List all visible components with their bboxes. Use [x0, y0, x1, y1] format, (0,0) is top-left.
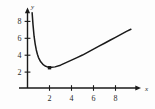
minimum-point-marker [48, 66, 51, 69]
x-tick-label-8: 8 [114, 94, 118, 103]
data-curve [32, 13, 131, 68]
x-tick-label-4: 4 [70, 94, 74, 103]
x-tick-label-6: 6 [92, 94, 96, 103]
x-tick-label-2: 2 [48, 94, 52, 103]
y-axis-arrow-icon [25, 8, 30, 14]
x-axis-arrow-icon [135, 85, 141, 90]
y-tick-label-6: 6 [18, 34, 22, 43]
y-tick-label-8: 8 [18, 17, 22, 26]
chart-figure: 2 4 6 8 2 4 6 8 y x [0, 0, 155, 109]
y-tick-label-4: 4 [18, 51, 22, 60]
y-tick-label-2: 2 [18, 68, 22, 77]
y-axis-label: y [30, 3, 35, 11]
plot-area: 2 4 6 8 2 4 6 8 y x [0, 0, 155, 109]
x-axis-label: x [144, 85, 149, 93]
